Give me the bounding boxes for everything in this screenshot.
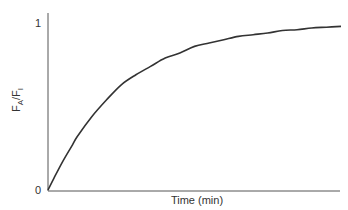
y-title-sub-i: I: [16, 88, 25, 90]
y-tick-label-0: 0: [35, 184, 41, 196]
x-axis-title: Time (min): [171, 194, 223, 206]
series-line-fa-fi: [48, 26, 341, 190]
chart: 01 Time (min) FA/FI: [0, 0, 348, 210]
y-tick-label-1: 1: [35, 17, 41, 29]
y-axis-title: FA/FI: [10, 88, 25, 112]
